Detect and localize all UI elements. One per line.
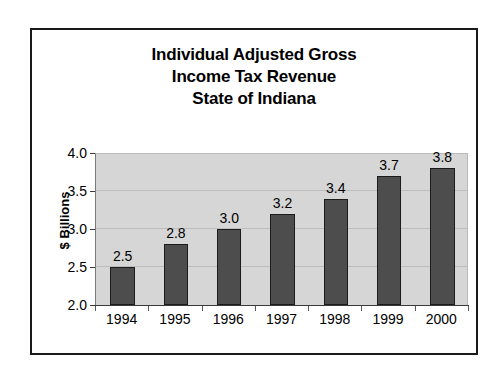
chart-frame: Individual Adjusted Gross Income Tax Rev… [30, 28, 478, 355]
x-axis-tick-label: 1999 [361, 311, 414, 327]
x-axis-tick-mark [468, 306, 469, 311]
bar-value-label: 3.0 [203, 210, 256, 226]
bar-value-label: 3.7 [362, 157, 415, 173]
chart-title-line-2: Income Tax Revenue [32, 66, 476, 88]
bar[interactable] [217, 229, 242, 305]
x-axis-tick-label: 1998 [308, 311, 361, 327]
bar[interactable] [324, 199, 349, 305]
chart-title-line-3: State of Indiana [32, 88, 476, 110]
x-axis-line [95, 305, 469, 306]
y-axis-tick-label: 3.0 [47, 221, 87, 237]
y-axis-tick-label: 4.0 [47, 145, 87, 161]
bar[interactable] [430, 168, 455, 305]
bar-value-label: 2.5 [96, 248, 149, 264]
bar-slot: 2.8 [149, 154, 202, 305]
bar-value-label: 2.8 [149, 225, 202, 241]
bar[interactable] [110, 267, 135, 305]
bar-slot: 2.5 [96, 154, 149, 305]
chart-title: Individual Adjusted Gross Income Tax Rev… [32, 44, 476, 110]
y-axis-tick-label: 2.5 [47, 259, 87, 275]
bar-value-label: 3.8 [416, 149, 469, 165]
bar-value-label: 3.2 [256, 195, 309, 211]
bar-slot: 3.4 [309, 154, 362, 305]
bar[interactable] [377, 176, 402, 305]
y-axis-tick-label: 2.0 [47, 297, 87, 313]
bar-value-label: 3.4 [309, 180, 362, 196]
x-axis-tick-label: 1996 [202, 311, 255, 327]
chart-title-line-1: Individual Adjusted Gross [32, 44, 476, 66]
bar[interactable] [270, 214, 295, 305]
y-axis-tick-label: 3.5 [47, 183, 87, 199]
bar-slot: 3.8 [416, 154, 469, 305]
x-axis-tick-label: 2000 [415, 311, 468, 327]
x-axis-tick-label: 1997 [255, 311, 308, 327]
x-axis-tick-label: 1995 [148, 311, 201, 327]
x-axis-tick-label: 1994 [95, 311, 148, 327]
plot-area: 2.52.83.03.23.43.73.8 [95, 153, 468, 305]
bar-slot: 3.2 [256, 154, 309, 305]
bar-slot: 3.7 [362, 154, 415, 305]
bar-slot: 3.0 [203, 154, 256, 305]
bar[interactable] [164, 244, 189, 305]
